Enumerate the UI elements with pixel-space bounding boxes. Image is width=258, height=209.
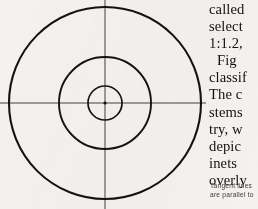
caption-line: Tangent lines <box>210 181 258 190</box>
body-line: Fig <box>209 52 258 69</box>
body-line: inets <box>209 155 258 172</box>
body-line: The c <box>209 86 258 103</box>
figure-panel <box>0 0 209 209</box>
body-line: stems <box>209 104 258 121</box>
caption-line: are parallel to <box>210 190 258 199</box>
body-line: called <box>209 1 258 18</box>
body-text-block: called select 1:1.2, Fig classif The c s… <box>209 1 258 189</box>
text-column: called select 1:1.2, Fig classif The c s… <box>207 0 258 209</box>
body-line: depic <box>209 138 258 155</box>
concentric-circles-diagram <box>0 0 209 209</box>
center-point-dot <box>103 101 106 104</box>
body-line: classif <box>209 69 258 86</box>
page-root: called select 1:1.2, Fig classif The c s… <box>0 0 258 209</box>
body-line: select <box>209 18 258 35</box>
figure-caption: Tangent lines are parallel to <box>210 181 258 200</box>
body-line: 1:1.2, <box>209 35 258 52</box>
body-line: try, w <box>209 121 258 138</box>
